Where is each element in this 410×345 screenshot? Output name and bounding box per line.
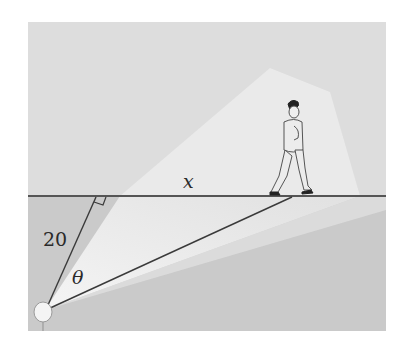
searchlight-diagram: x 20 θ — [0, 0, 410, 345]
label-distance-20: 20 — [43, 230, 67, 249]
diagram-canvas — [0, 0, 410, 345]
label-x: x — [183, 172, 194, 191]
label-theta: θ — [72, 268, 83, 287]
